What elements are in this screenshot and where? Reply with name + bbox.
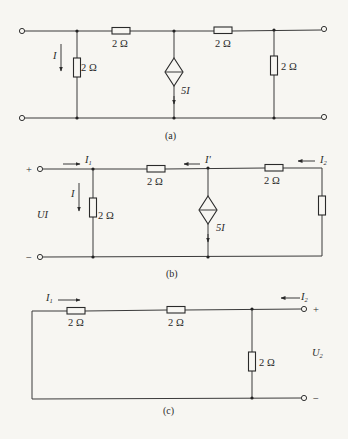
resistor-label: 2 Ω [81,62,97,73]
wire [32,398,301,399]
junction-dot [272,28,275,31]
terminal [301,306,306,311]
terminal [301,395,306,400]
wire [85,310,167,311]
resistor-icon [249,352,256,371]
junction-dot [75,116,78,119]
resistor-label: 2 Ω [264,175,280,186]
junction-dot [272,116,275,119]
current-label-i2: I2 [319,154,328,166]
current-label-i1: I1 [45,292,53,304]
minus-sign: − [313,393,319,404]
resistor-icon [112,28,130,35]
circuit-c: I1 I2 2 Ω 2 Ω 2 Ω + − U2 (c) [32,291,324,417]
caption-a: (a) [165,130,176,142]
terminal [321,26,326,31]
wire [185,309,301,310]
resistor-icon [67,308,85,315]
voltage-label: UI [37,209,49,220]
resistor-icon [74,58,81,77]
junction-dot [172,29,175,32]
resistor-label: 2 Ω [168,317,184,328]
current-label-iprime: I' [204,154,211,165]
junction-dot [250,307,253,310]
caption-c: (c) [163,405,174,417]
wire [232,30,321,31]
junction-dot [206,255,209,258]
current-label: I [52,50,57,61]
voltage-label: U2 [312,347,324,359]
source-label: 5I [216,222,225,233]
resistor-label: 2 Ω [215,38,231,49]
circuit-figure: I 2 Ω 2 Ω 2 Ω 2 Ω 5I (a) [0,0,348,439]
resistor-icon [214,27,232,34]
caption-b: (b) [166,268,178,280]
junction-dot [172,116,175,119]
wire [165,168,265,169]
resistor-icon [271,56,278,75]
junction-dot [91,167,94,170]
minus-sign: − [26,252,32,263]
junction-dot [250,396,253,399]
circuit-a: I 2 Ω 2 Ω 2 Ω 2 Ω 5I (a) [19,26,326,142]
junction-dot [75,29,78,32]
junction-dot [91,255,94,258]
current-label-i: I [70,188,75,199]
resistor-label: 2 Ω [147,176,163,187]
circuit-b: + − I1 I UI 2 Ω 2 Ω 2 Ω I' I2 5I (b) [26,154,328,280]
resistor-label: 2 Ω [98,210,114,221]
terminal [19,115,24,120]
terminal [37,166,42,171]
resistor-icon [265,165,283,172]
resistor-label: 2 Ω [112,38,128,49]
resistor-icon [319,196,326,215]
current-label-i2: I2 [300,291,309,303]
junction-dot [206,166,209,169]
resistor-icon [147,166,165,173]
source-label: 5I [181,85,190,96]
terminal [321,114,326,119]
resistor-icon [90,198,97,217]
resistor-icon [167,307,185,314]
resistor-label: 2 Ω [259,357,275,368]
resistor-label: 2 Ω [281,61,297,72]
current-label-i1: I1 [84,154,92,166]
plus-sign: + [313,304,319,315]
terminal [19,28,24,33]
plus-sign: + [26,164,32,175]
wire [43,256,322,257]
resistor-label: 2 Ω [68,317,84,328]
terminal [37,254,42,259]
